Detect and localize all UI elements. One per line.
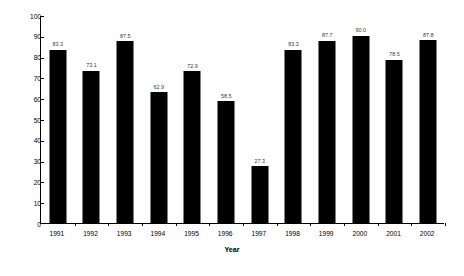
bar-value-label: 83.3 xyxy=(288,41,299,48)
bar-value-label: 72.9 xyxy=(187,63,198,70)
bar-group: 72.9 xyxy=(176,16,210,223)
bar-value-label: 87.7 xyxy=(322,32,333,39)
bar-value-label: 78.5 xyxy=(389,51,400,58)
bar-group: 62.9 xyxy=(142,16,176,223)
y-tick-label: 70 xyxy=(11,74,41,83)
x-tick-mark xyxy=(176,223,177,226)
bar-value-label: 58.5 xyxy=(221,93,232,100)
bar-value-label: 27.3 xyxy=(255,158,266,165)
x-tick-mark xyxy=(75,223,76,226)
y-tick-label: 90 xyxy=(11,32,41,41)
x-tick-mark xyxy=(108,223,109,226)
bars-layer: 83.373.187.562.972.958.527.383.387.790.0… xyxy=(41,16,444,223)
x-axis-title: Year xyxy=(0,245,464,254)
bar-group: 83.3 xyxy=(277,16,311,223)
bar xyxy=(218,101,235,223)
bar-group: 87.8 xyxy=(411,16,445,223)
bar xyxy=(150,92,167,223)
bar-group: 90.0 xyxy=(344,16,378,223)
y-tick-label: 0 xyxy=(11,220,41,229)
x-tick-mark xyxy=(378,223,379,226)
bar-chart: Percentage of Entrants that Survive 0102… xyxy=(0,0,464,276)
y-tick-label: 20 xyxy=(11,178,41,187)
bar-value-label: 87.5 xyxy=(120,33,131,40)
plot-area: 0102030405060708090100 83.373.187.562.97… xyxy=(40,16,444,224)
y-tick-label: 100 xyxy=(11,12,41,21)
bar-group: 83.3 xyxy=(41,16,75,223)
bar-group: 78.5 xyxy=(378,16,412,223)
y-tick-label: 40 xyxy=(11,136,41,145)
x-tick-mark xyxy=(411,223,412,226)
x-tick-mark xyxy=(344,223,345,226)
bar xyxy=(285,50,302,223)
bar xyxy=(352,36,369,223)
y-tick-label: 50 xyxy=(11,116,41,125)
bar-group: 58.5 xyxy=(209,16,243,223)
bar xyxy=(117,41,134,223)
y-tick-label: 30 xyxy=(11,157,41,166)
bar-group: 73.1 xyxy=(75,16,109,223)
bar xyxy=(49,50,66,223)
bar-value-label: 90.0 xyxy=(356,27,367,34)
bar-group: 27.3 xyxy=(243,16,277,223)
bar-group: 87.7 xyxy=(310,16,344,223)
bar-value-label: 87.8 xyxy=(423,32,434,39)
bar xyxy=(184,71,201,223)
bar xyxy=(420,40,437,223)
y-tick-label: 60 xyxy=(11,95,41,104)
y-tick-label: 80 xyxy=(11,53,41,62)
bar-value-label: 73.1 xyxy=(86,62,97,69)
x-tick-mark xyxy=(142,223,143,226)
bar xyxy=(386,60,403,223)
x-tick-mark xyxy=(209,223,210,226)
x-tick-mark xyxy=(243,223,244,226)
x-tick-mark xyxy=(445,223,446,226)
bar-value-label: 83.3 xyxy=(53,41,64,48)
y-tick-label: 10 xyxy=(11,199,41,208)
bar xyxy=(319,41,336,223)
bar-value-label: 62.9 xyxy=(154,84,165,91)
x-tick-label: 2002 xyxy=(407,229,447,238)
bar-group: 87.5 xyxy=(108,16,142,223)
bar xyxy=(83,71,100,223)
bar xyxy=(251,166,268,223)
x-tick-mark xyxy=(277,223,278,226)
x-tick-mark xyxy=(310,223,311,226)
